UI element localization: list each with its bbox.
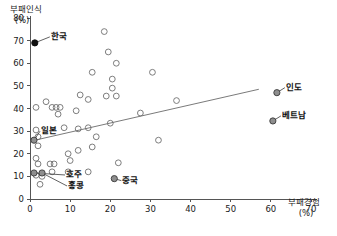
data-point [43,99,49,105]
data-point [85,169,91,175]
data-point [150,69,156,75]
x-tick-label-60: 60 [265,204,276,214]
x-axis-unit: (%) [299,208,314,218]
x-tick-label-20: 20 [105,204,116,214]
x-tick-label-50: 50 [225,204,236,214]
data-point [89,69,95,75]
data-points-group [33,29,179,188]
point-label-일본: 일본 [41,125,57,135]
labeled-point-호주 [31,170,37,176]
y-axis-unit: (%) [15,15,30,25]
data-point [65,151,71,157]
data-point [37,181,43,187]
labeled-point-인도 [274,90,280,96]
data-point [57,104,63,110]
data-point [33,127,39,133]
y-tick-label-30: 30 [13,126,24,136]
data-point [33,104,39,110]
data-point [109,85,115,91]
x-tick-label-0: 0 [27,204,32,214]
data-point [75,126,81,132]
trend-line-group [30,89,259,141]
data-point [113,93,119,99]
tick-labels-group: 01020304050607080010203040506070 [13,13,316,214]
data-point [156,137,162,143]
data-point [103,93,109,99]
point-label-호주: 호주 [66,169,82,179]
data-point [113,60,119,66]
data-point [85,97,91,103]
y-tick-label-0: 0 [19,194,24,204]
labeled-point-일본 [31,137,37,143]
point-label-중국: 중국 [122,175,138,185]
data-point [109,76,115,82]
data-point [35,143,41,149]
labeled-point-중국 [111,176,117,182]
labeled-point-홍콩 [39,170,45,176]
point-label-한국: 한국 [51,31,67,41]
y-tick-label-60: 60 [13,58,24,68]
data-point [51,161,57,167]
labeled-point-한국 [32,40,38,46]
data-point [105,49,111,55]
data-point [101,29,107,35]
data-point [73,108,79,114]
y-axis-title: 부패인식 [10,4,42,14]
point-label-베트남: 베트남 [282,110,306,120]
data-point [75,147,81,153]
data-point [35,161,41,167]
trend-line [30,89,259,141]
scatter-chart: 01020304050607080010203040506070 한국인도베트남… [0,0,337,236]
point-label-홍콩: 홍콩 [68,180,84,190]
data-point [93,134,99,140]
y-tick-label-50: 50 [13,81,24,91]
y-tick-label-70: 70 [13,36,24,46]
y-tick-label-20: 20 [13,149,24,159]
x-axis-title: 부패경험 [288,197,320,207]
x-tick-label-10: 10 [65,204,76,214]
x-tick-label-40: 40 [185,204,196,214]
data-point [137,110,143,116]
labeled-points-group: 한국인도베트남일본호주홍콩중국 [31,31,306,190]
data-point [33,155,39,161]
data-point [89,144,95,150]
labeled-point-베트남 [270,118,276,124]
data-point [61,125,67,131]
data-point [67,158,73,164]
point-label-인도: 인도 [286,82,302,92]
data-point [77,92,83,98]
y-tick-label-40: 40 [13,104,24,114]
data-point [174,98,180,104]
data-point [115,160,121,166]
plot-svg: 01020304050607080010203040506070 한국인도베트남… [0,0,337,236]
y-tick-label-10: 10 [13,171,24,181]
data-point [55,111,61,117]
x-tick-label-30: 30 [145,204,156,214]
